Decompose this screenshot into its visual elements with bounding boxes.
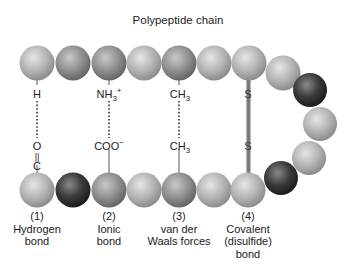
coo-sup: − bbox=[119, 138, 124, 147]
bond-connectors bbox=[37, 75, 251, 176]
nh-text: NH bbox=[96, 88, 112, 100]
atom-label-c: C bbox=[27, 160, 47, 172]
ch-sub: 3 bbox=[186, 94, 190, 103]
ch-text: CH bbox=[170, 88, 186, 100]
nh-sub: 3 bbox=[112, 94, 116, 103]
atom-label-ch3-bottom: CH3 bbox=[164, 140, 196, 152]
ch-sub: 3 bbox=[186, 146, 190, 155]
caption-line: (disulfide) bbox=[203, 235, 293, 248]
chain-loop bbox=[264, 73, 337, 195]
caption-covalent-bond: (4) Covalent (disulfide) bond bbox=[203, 210, 293, 260]
bottom-chain bbox=[20, 173, 266, 208]
ch-text: CH bbox=[170, 140, 186, 152]
atom-label-coo: COO− bbox=[89, 140, 129, 152]
atom-label-nh3: NH3+ bbox=[89, 88, 129, 100]
atom-label-s-top: S bbox=[238, 88, 258, 100]
top-chain bbox=[20, 46, 301, 91]
coo-text: COO bbox=[94, 140, 119, 152]
atom-label-s-bottom: S bbox=[238, 140, 258, 152]
nh-sup: + bbox=[117, 86, 122, 95]
caption-line: bond bbox=[203, 248, 293, 261]
atom-label-ch3-top: CH3 bbox=[164, 88, 196, 100]
caption-number: (4) bbox=[203, 210, 293, 223]
atom-label-h: H bbox=[27, 88, 47, 100]
caption-line: Covalent bbox=[203, 223, 293, 236]
diagram-title: Polypeptide chain bbox=[0, 14, 356, 26]
